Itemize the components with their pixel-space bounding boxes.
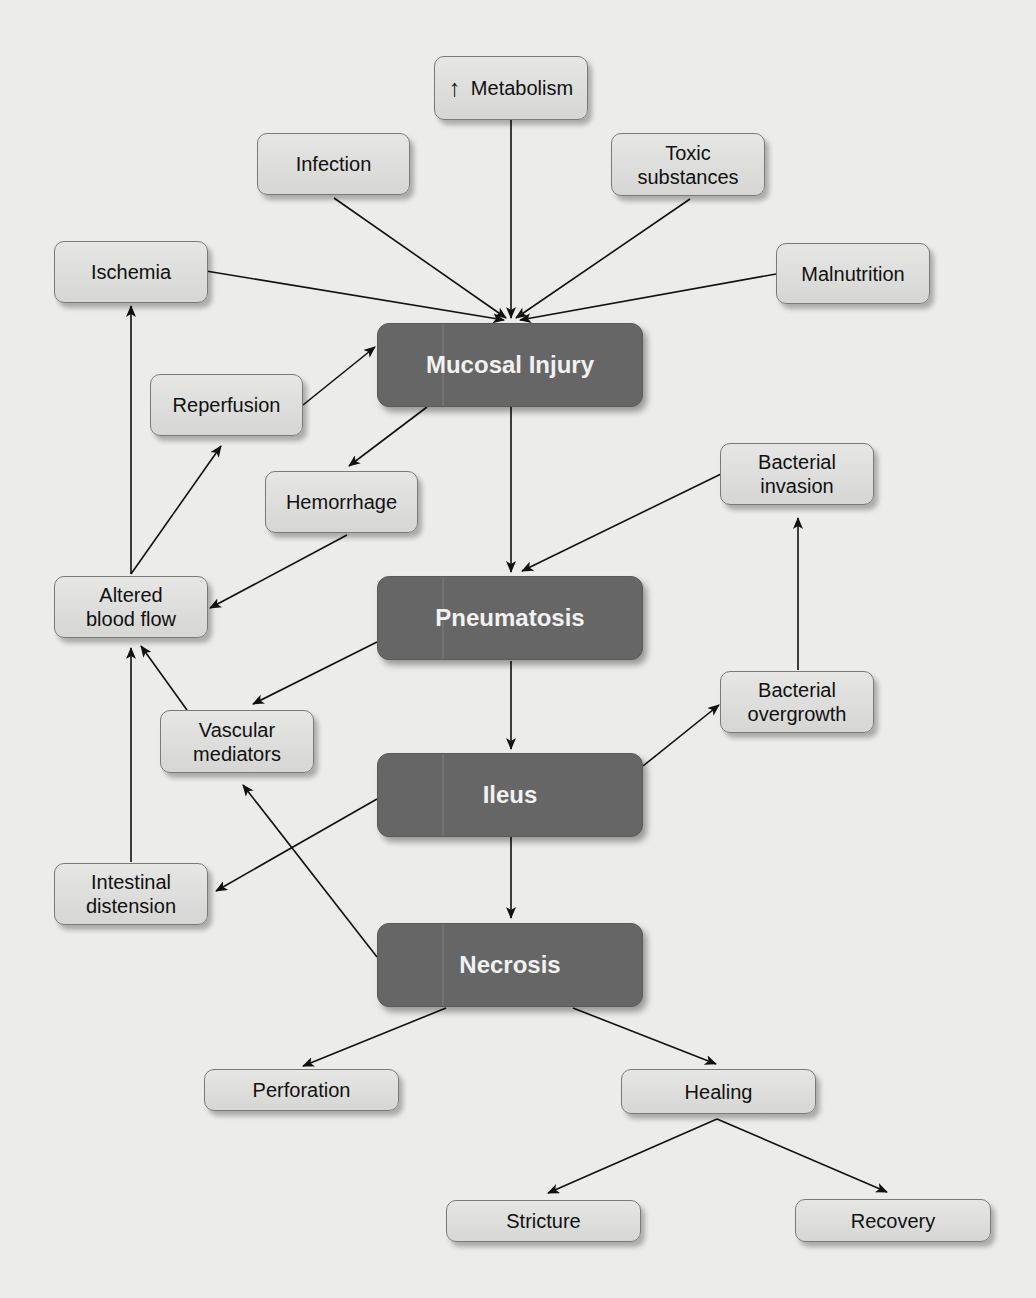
node-label: Reperfusion xyxy=(173,393,281,417)
node-label-line2: substances xyxy=(637,165,738,189)
edge-healing-to-recovery xyxy=(717,1119,887,1192)
node-pneumatosis: Pneumatosis xyxy=(377,576,643,660)
edge-mucosal-injury-to-hemorrhage xyxy=(349,407,427,466)
edge-bacterial-invasion-to-pneumatosis xyxy=(522,474,721,571)
node-label: Hemorrhage xyxy=(286,490,397,514)
edge-malnutrition-to-mucosal-injury xyxy=(520,274,776,320)
node-stricture: Stricture xyxy=(446,1200,641,1242)
node-metabolism: ↑ Metabolism xyxy=(434,56,588,120)
node-malnutrition: Malnutrition xyxy=(776,243,930,304)
node-label-line1: Toxic xyxy=(665,141,711,165)
node-label-line2: blood flow xyxy=(86,607,176,631)
node-toxic-substances: Toxic substances xyxy=(611,133,765,196)
edge-altered-blood-flow-to-reperfusion xyxy=(131,446,221,574)
node-label-line1: Bacterial xyxy=(758,678,836,702)
node-infection: Infection xyxy=(257,133,410,195)
edge-ileus-to-bacterial-overgrowth xyxy=(643,705,719,766)
node-label-line1: Altered xyxy=(99,583,162,607)
node-label: Ileus xyxy=(483,781,538,809)
node-vascular-mediators: Vascular mediators xyxy=(160,710,314,773)
node-intestinal-distension: Intestinal distension xyxy=(54,863,208,925)
node-label: Necrosis xyxy=(459,951,560,979)
node-mucosal-injury: Mucosal Injury xyxy=(377,323,643,407)
node-label-line2: invasion xyxy=(760,474,833,498)
node-altered-blood-flow: Altered blood flow xyxy=(54,576,208,638)
edge-ileus-to-intestinal-distension xyxy=(216,799,377,891)
node-label: Ischemia xyxy=(91,260,171,284)
edge-ischemia-to-mucosal-injury xyxy=(206,271,504,320)
node-reperfusion: Reperfusion xyxy=(150,374,303,436)
node-label-line2: mediators xyxy=(193,742,281,766)
node-ischemia: Ischemia xyxy=(54,241,208,303)
node-label: Infection xyxy=(296,152,372,176)
node-label: Mucosal Injury xyxy=(426,351,594,379)
node-necrosis: Necrosis xyxy=(377,923,643,1007)
node-bacterial-invasion: Bacterial invasion xyxy=(720,443,874,505)
node-label: Pneumatosis xyxy=(435,604,584,632)
edge-infection-to-mucosal-injury xyxy=(334,198,506,318)
node-perforation: Perforation xyxy=(204,1069,399,1111)
node-label: Malnutrition xyxy=(801,262,904,286)
node-label: Metabolism xyxy=(471,76,573,100)
node-label-line2: distension xyxy=(86,894,176,918)
node-label-line1: Intestinal xyxy=(91,870,171,894)
node-label-line2: overgrowth xyxy=(748,702,847,726)
node-label-line1: Vascular xyxy=(199,718,275,742)
edge-vascular-mediators-to-altered-blood-flow xyxy=(141,646,187,710)
edge-healing-to-stricture xyxy=(548,1119,717,1193)
up-arrow-icon: ↑ xyxy=(449,76,461,100)
edge-necrosis-to-perforation xyxy=(303,1008,446,1066)
edge-toxic-to-mucosal-injury xyxy=(516,199,690,318)
node-hemorrhage: Hemorrhage xyxy=(265,471,418,533)
edge-pneumatosis-to-vascular-mediators xyxy=(253,642,377,704)
edge-necrosis-to-healing xyxy=(573,1008,716,1064)
node-label: Recovery xyxy=(851,1209,935,1233)
node-label: Perforation xyxy=(253,1078,351,1102)
node-label: Healing xyxy=(685,1080,753,1104)
edge-hemorrhage-to-altered-blood-flow xyxy=(210,535,347,608)
node-healing: Healing xyxy=(621,1069,816,1114)
node-label: Stricture xyxy=(506,1209,580,1233)
edge-reperfusion-to-mucosal-injury xyxy=(303,347,375,405)
node-label-line1: Bacterial xyxy=(758,450,836,474)
node-bacterial-overgrowth: Bacterial overgrowth xyxy=(720,671,874,733)
node-recovery: Recovery xyxy=(795,1199,991,1242)
node-ileus: Ileus xyxy=(377,753,643,837)
